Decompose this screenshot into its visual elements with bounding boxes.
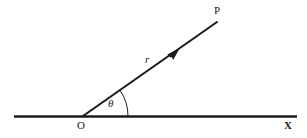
x-axis-label: X xyxy=(284,120,292,131)
point-p-label: P xyxy=(214,5,220,16)
vector-angle-diagram: P X O r θ xyxy=(0,0,307,138)
angle-theta-label: θ xyxy=(108,98,113,109)
radius-label: r xyxy=(145,54,149,65)
origin-label: O xyxy=(77,120,85,131)
ray-arrowhead-icon xyxy=(166,48,180,60)
angle-arc xyxy=(120,90,128,116)
ray-op-line xyxy=(83,22,217,116)
diagram-canvas xyxy=(0,0,307,138)
